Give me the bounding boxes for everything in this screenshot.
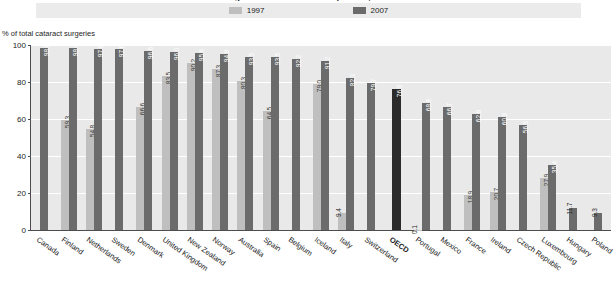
bar-value-label-2007: 91.2 xyxy=(325,57,332,69)
bar-value-label-2007: 66.7 xyxy=(447,102,454,114)
bar-2007[interactable]: 79.7 xyxy=(367,83,375,230)
bar-group[interactable]: 98.6 xyxy=(31,45,56,230)
bar-oecd-average[interactable]: 76.3 xyxy=(392,89,401,230)
x-label-cell: Norway xyxy=(207,233,232,299)
bar-2007[interactable]: 97.8 xyxy=(94,49,102,230)
bar-group[interactable]: 97.6 xyxy=(107,45,132,230)
bar-1997[interactable]: 18.9 xyxy=(464,195,472,230)
x-label-cell: Ireland xyxy=(485,233,510,299)
bar-group[interactable]: 79.091.2 xyxy=(308,45,333,230)
x-label-cell: Netherlands xyxy=(81,233,106,299)
bar-2007[interactable]: 60.9 xyxy=(498,117,506,230)
bar-2007[interactable]: 92.2 xyxy=(292,59,300,230)
bar-group[interactable]: 9.482.3 xyxy=(334,45,359,230)
bar-1997[interactable]: 83.5 xyxy=(162,76,170,230)
x-label-cell: Portugal xyxy=(409,233,434,299)
bar-2007[interactable]: 94.9 xyxy=(220,54,228,230)
bar-2007[interactable]: 96.6 xyxy=(144,51,152,230)
x-label-cell: Hungary xyxy=(561,233,586,299)
bar-1997[interactable]: 87.3 xyxy=(212,69,220,231)
bar-group[interactable]: 59.398.4 xyxy=(56,45,81,230)
x-label-cell: Australia xyxy=(232,233,257,299)
bar-2007[interactable]: 66.7 xyxy=(443,107,451,230)
bar-2007[interactable]: 56.5 xyxy=(519,125,527,230)
bar-group[interactable]: 79.7 xyxy=(359,45,384,230)
bar-group[interactable]: 27.935.4 xyxy=(535,45,560,230)
bar-value-label-2007: 9.3 xyxy=(592,208,599,217)
bar-1997[interactable]: 9.4 xyxy=(338,213,346,230)
bar-value-label-2007: 68.8 xyxy=(426,99,433,111)
bar-group[interactable]: 9.3 xyxy=(586,45,611,230)
y-tick-label: 60 xyxy=(17,115,26,124)
x-label-cell: Canada xyxy=(30,233,55,299)
bar-1997[interactable]: 20.7 xyxy=(490,192,498,230)
bar-2007[interactable]: 91.2 xyxy=(321,61,329,230)
bar-2007[interactable]: 98.4 xyxy=(69,48,77,230)
bar-2007[interactable]: 98.6 xyxy=(40,48,48,230)
bar-group[interactable]: 80.393.5 xyxy=(233,45,258,230)
bar-1997[interactable]: 27.9 xyxy=(540,178,548,230)
x-label-cell: United Kingdom xyxy=(156,233,181,299)
legend-swatch-1997 xyxy=(229,7,242,14)
x-label-cell: France xyxy=(460,233,485,299)
bar-group[interactable]: 18.962.9 xyxy=(460,45,485,230)
bar-group[interactable]: 76.3 xyxy=(384,45,409,230)
bar-group[interactable]: 66.7 xyxy=(435,45,460,230)
bar-value-label-2007: 93.5 xyxy=(249,53,256,65)
bar-value-label-2007: 60.9 xyxy=(502,113,509,125)
bar-1997[interactable]: 66.6 xyxy=(136,107,144,230)
bar-group[interactable]: 64.593.5 xyxy=(258,45,283,230)
x-axis-labels: CanadaFinlandNetherlandsSwedenDenmarkUni… xyxy=(30,233,611,299)
bar-2007[interactable]: 9.3 xyxy=(594,213,602,230)
x-label-cell: Mexico xyxy=(434,233,459,299)
bar-2007[interactable]: 68.8 xyxy=(422,103,430,230)
legend-label-2007: 2007 xyxy=(371,7,389,15)
bar-group[interactable]: 90.295.6 xyxy=(182,45,207,230)
y-tick-label: 40 xyxy=(17,152,26,161)
x-axis-label: Spain xyxy=(262,235,283,253)
bar-group[interactable]: 66.696.6 xyxy=(132,45,157,230)
x-label-cell: Luxembourg xyxy=(535,233,560,299)
bar-2007[interactable]: 93.5 xyxy=(245,57,253,230)
bar-value-label-1997: 9.4 xyxy=(336,208,343,217)
x-label-cell: Czech Republic xyxy=(510,233,535,299)
bar-group[interactable]: 0.168.8 xyxy=(409,45,434,230)
legend-item-1997: 1997 xyxy=(229,7,265,15)
bar-value-label-2007: 97.8 xyxy=(98,45,105,57)
bar-value-label-2007: 62.9 xyxy=(476,110,483,122)
x-axis-label: Poland xyxy=(590,235,614,256)
bar-2007[interactable]: 35.4 xyxy=(548,165,556,230)
bar-group[interactable]: 87.394.9 xyxy=(208,45,233,230)
bar-2007[interactable]: 82.3 xyxy=(346,78,354,230)
bar-group[interactable]: 83.596.0 xyxy=(157,45,182,230)
x-label-cell: Belgium xyxy=(283,233,308,299)
plot-area: 020406080100 98.659.398.454.897.897.666.… xyxy=(30,45,611,231)
x-label-cell: OECD xyxy=(384,233,409,299)
y-tick-label: 100 xyxy=(13,41,26,50)
bar-value-label-2007: 98.4 xyxy=(73,44,80,56)
bar-1997[interactable]: 64.5 xyxy=(263,111,271,230)
x-axis-label: OECD xyxy=(388,235,411,255)
bar-1997[interactable]: 90.2 xyxy=(187,63,195,230)
bar-1997[interactable]: 54.8 xyxy=(86,129,94,230)
bar-value-label-2007: 82.3 xyxy=(350,74,357,86)
bar-2007[interactable]: 62.9 xyxy=(472,114,480,230)
y-tick-label: 20 xyxy=(17,189,26,198)
bar-1997[interactable]: 59.3 xyxy=(61,120,69,230)
bar-group[interactable]: 20.760.9 xyxy=(485,45,510,230)
chart-legend: 1997 2007 xyxy=(36,3,581,18)
bar-2007[interactable]: 93.5 xyxy=(271,57,279,230)
bar-group[interactable]: 11.7 xyxy=(561,45,586,230)
bar-value-label-2007: 76.3 xyxy=(397,85,404,97)
bar-2007[interactable]: 95.6 xyxy=(195,53,203,230)
bar-2007[interactable]: 97.6 xyxy=(115,49,123,230)
x-label-cell: Italy xyxy=(333,233,358,299)
bar-2007[interactable]: 96.0 xyxy=(170,52,178,230)
bar-group[interactable]: 54.897.8 xyxy=(81,45,106,230)
bar-1997[interactable]: 79.0 xyxy=(313,84,321,230)
bar-group[interactable]: 92.2 xyxy=(283,45,308,230)
bar-group[interactable]: 56.5 xyxy=(510,45,535,230)
bar-2007[interactable]: 11.7 xyxy=(569,208,577,230)
bar-value-label-2007: 95.6 xyxy=(199,49,206,61)
bar-1997[interactable]: 80.3 xyxy=(237,81,245,230)
